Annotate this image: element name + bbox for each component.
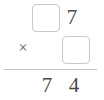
multiplication-worksheet: 7 × 7 4 [0,0,104,100]
problem-divider-rule [4,69,97,70]
multiplication-sign-icon: × [15,40,31,56]
multiplier-input-box[interactable] [62,36,90,64]
multiplicand-tens-input-box[interactable] [32,4,60,32]
product-tens-digit: 7 [38,75,56,96]
multiplicand-ones-digit: 7 [63,7,81,28]
product-ones-digit: 4 [65,75,83,96]
